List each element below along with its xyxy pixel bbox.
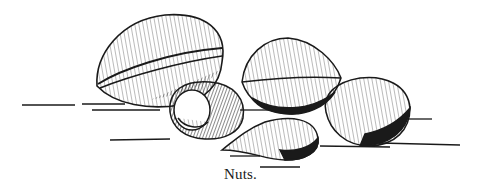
pecan-nut [325,77,410,146]
nuts-engraving-illustration [0,0,481,192]
hazelnut [170,82,244,139]
figure-caption: Nuts. [0,166,481,183]
